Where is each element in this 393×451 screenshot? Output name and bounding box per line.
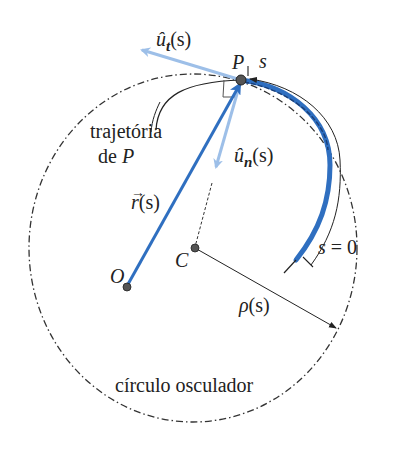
label-unit-normal: ûn(s) — [234, 144, 273, 170]
label-radius: ρ(s) — [238, 294, 270, 317]
label-origin: O — [110, 265, 124, 287]
label-trajectory-line2: de P — [98, 145, 134, 167]
label-center: C — [175, 249, 189, 271]
osculating-circle-diagram: ût(s) P s trajetória de P ûn(s) → r(s) O… — [0, 0, 393, 451]
label-position-vector: r(s) — [131, 191, 160, 214]
arc-length-arrow — [250, 79, 340, 265]
label-s-zero: s= 0 — [318, 236, 357, 258]
trajectory-blue-segment — [241, 80, 330, 260]
s-zero-tick — [303, 257, 313, 267]
label-unit-tangent: ût(s) — [156, 28, 191, 54]
label-osculating-circle: círculo osculador — [115, 374, 254, 396]
trajectory-tail — [284, 260, 296, 273]
label-arc-s: s — [259, 50, 267, 72]
label-trajectory-line1: trajetória — [90, 120, 162, 143]
point-C — [191, 244, 199, 252]
unit-tangent-vector — [142, 50, 241, 80]
normal-to-center-dashed — [195, 183, 212, 247]
point-P — [236, 75, 246, 85]
label-point-P: P — [231, 51, 244, 73]
